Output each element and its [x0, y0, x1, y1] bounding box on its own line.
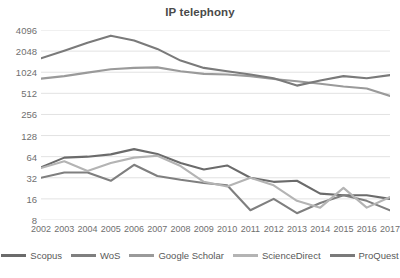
x-axis-tick-2011: 2011	[241, 224, 260, 234]
legend-item-label: Scopus	[30, 250, 62, 261]
legend-item-sciencedirect[interactable]: ScienceDirect	[233, 250, 321, 261]
legend-item-label: WoS	[100, 250, 120, 261]
legend-item-wos[interactable]: WoS	[71, 250, 120, 261]
series-line-google-scholar	[41, 67, 390, 96]
x-axis-tick-2002: 2002	[31, 224, 51, 234]
y-axis-tick-1024: 1024	[0, 67, 37, 78]
x-axis-tick-2017: 2017	[380, 224, 400, 234]
series-line-proquest	[41, 36, 390, 86]
x-axis-tick-2014: 2014	[310, 224, 330, 234]
legend-swatch-icon	[233, 254, 258, 257]
y-axis-tick-4096: 4096	[0, 25, 37, 36]
y-axis-tick-16: 16	[0, 193, 37, 204]
legend-item-label: ProQuest	[359, 250, 399, 261]
chart-title: IP telephony	[0, 6, 400, 18]
y-axis-tick-2048: 2048	[0, 46, 37, 57]
x-axis-tick-2007: 2007	[147, 224, 167, 234]
legend-item-label: Google Scholar	[158, 250, 223, 261]
x-axis-tick-2005: 2005	[101, 224, 121, 234]
series-line-sciencedirect	[41, 156, 390, 208]
chart-container: IP telephony 816326412825651210242048409…	[0, 0, 400, 278]
legend-swatch-icon	[71, 254, 96, 257]
x-axis-tick-2008: 2008	[171, 224, 191, 234]
series-line-wos	[41, 165, 390, 213]
x-axis-tick-2009: 2009	[194, 224, 214, 234]
y-axis-tick-256: 256	[0, 109, 37, 120]
x-axis-tick-2012: 2012	[264, 224, 284, 234]
x-axis-tick-2013: 2013	[287, 224, 307, 234]
x-axis-tick-2010: 2010	[217, 224, 237, 234]
y-axis-tick-32: 32	[0, 172, 37, 183]
plot-area	[41, 30, 390, 220]
legend-swatch-icon	[330, 254, 355, 257]
x-axis-tick-2016: 2016	[357, 224, 377, 234]
legend-item-scopus[interactable]: Scopus	[1, 250, 62, 261]
y-axis-tick-64: 64	[0, 151, 37, 162]
y-axis-tick-512: 512	[0, 88, 37, 99]
legend-item-proquest[interactable]: ProQuest	[330, 250, 399, 261]
x-axis-tick-2006: 2006	[124, 224, 144, 234]
legend-item-label: ScienceDirect	[262, 250, 321, 261]
chart-legend: ScopusWoSGoogle ScholarScienceDirectProQ…	[0, 250, 400, 261]
x-axis-tick-2004: 2004	[78, 224, 98, 234]
legend-swatch-icon	[129, 254, 154, 257]
y-axis-tick-128: 128	[0, 130, 37, 141]
legend-swatch-icon	[1, 254, 26, 257]
x-axis-tick-2003: 2003	[54, 224, 74, 234]
legend-item-google-scholar[interactable]: Google Scholar	[129, 250, 223, 261]
x-axis-tick-2015: 2015	[333, 224, 353, 234]
series-lines	[41, 30, 390, 220]
